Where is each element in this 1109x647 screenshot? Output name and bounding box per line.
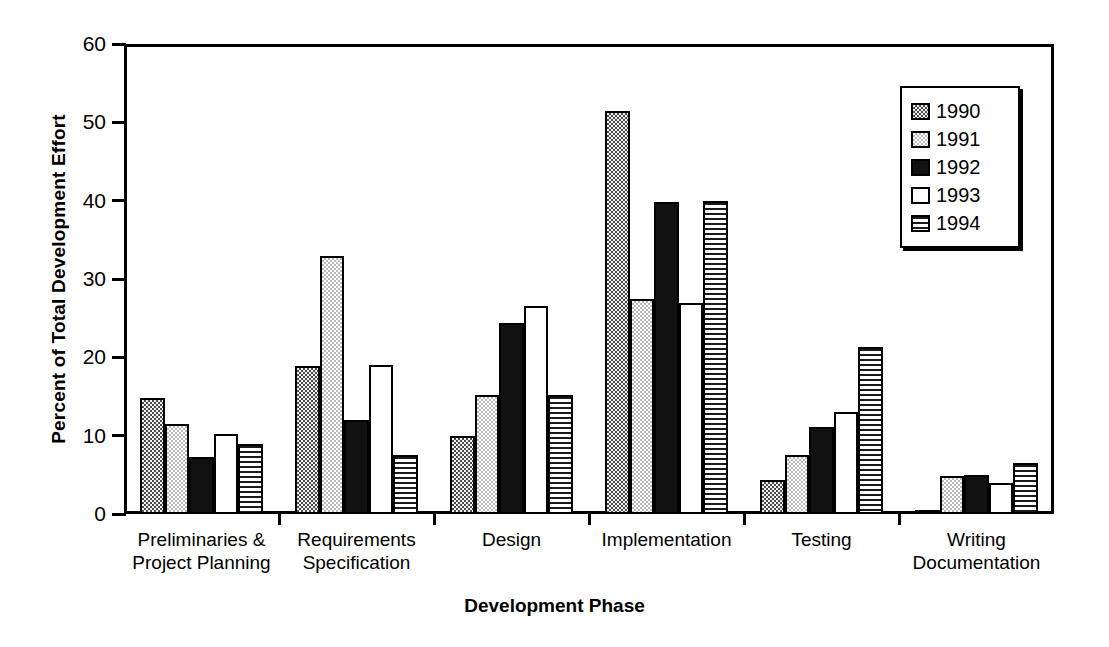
bar [475, 395, 500, 514]
legend-item[interactable]: 1993 [911, 182, 1009, 208]
x-axis-tick [433, 514, 436, 525]
legend-swatch-icon [911, 103, 930, 120]
bar [238, 444, 263, 515]
legend-item[interactable]: 1990 [911, 98, 1009, 124]
bar [214, 434, 239, 514]
bar [785, 455, 810, 514]
y-axis-tick-label: 40 [36, 190, 106, 211]
bar [450, 436, 475, 514]
bar [834, 412, 859, 514]
legend: 19901991199219931994 [900, 86, 1020, 248]
x-axis-tick [743, 514, 746, 525]
legend-swatch-icon [911, 187, 930, 204]
y-axis-tick-label: 10 [36, 425, 106, 446]
legend-swatch-icon [911, 215, 930, 232]
bar [165, 424, 190, 514]
legend-label: 1993 [936, 185, 981, 205]
bar-chart: Percent of Total Development Effort 0102… [0, 0, 1109, 647]
bar [858, 347, 883, 514]
bar [369, 365, 394, 514]
x-axis-group-label-line: Specification [259, 551, 454, 574]
bar [140, 398, 165, 514]
bar [654, 202, 679, 514]
bar [344, 420, 369, 514]
legend-item[interactable]: 1991 [911, 126, 1009, 152]
y-axis-tick-label: 30 [36, 268, 106, 289]
legend-label: 1994 [936, 213, 981, 233]
x-axis-tick [278, 514, 281, 525]
bar [393, 455, 418, 514]
bar [548, 395, 573, 514]
bar [964, 475, 989, 514]
bar [605, 111, 630, 514]
bar [940, 476, 965, 514]
bar [703, 201, 728, 514]
legend-item[interactable]: 1992 [911, 154, 1009, 180]
legend-swatch-icon [911, 131, 930, 148]
y-axis-tick-label: 60 [36, 33, 106, 54]
x-axis-tick [898, 514, 901, 525]
x-axis-title: Development Phase [0, 595, 1109, 617]
x-axis-group-label-line: Writing [879, 528, 1074, 551]
bar [630, 299, 655, 514]
bar [1013, 463, 1038, 514]
bar [320, 256, 345, 515]
y-axis-tick-label: 50 [36, 111, 106, 132]
x-axis-group-label-line: Documentation [879, 551, 1074, 574]
bar [295, 366, 320, 514]
bar [189, 457, 214, 514]
bar [915, 510, 940, 514]
bar [809, 427, 834, 514]
legend-swatch-icon [911, 159, 930, 176]
bar [499, 323, 524, 514]
bar [679, 303, 704, 515]
legend-label: 1990 [936, 101, 981, 121]
x-axis-group-label: WritingDocumentation [879, 528, 1074, 574]
legend-label: 1992 [936, 157, 981, 177]
bar [524, 306, 549, 514]
legend-label: 1991 [936, 129, 981, 149]
legend-item[interactable]: 1994 [911, 210, 1009, 236]
y-axis-tick-label: 20 [36, 346, 106, 367]
x-axis-tick [588, 514, 591, 525]
bar [760, 480, 785, 514]
bar [989, 483, 1014, 514]
y-axis-tick-label: 0 [36, 503, 106, 524]
